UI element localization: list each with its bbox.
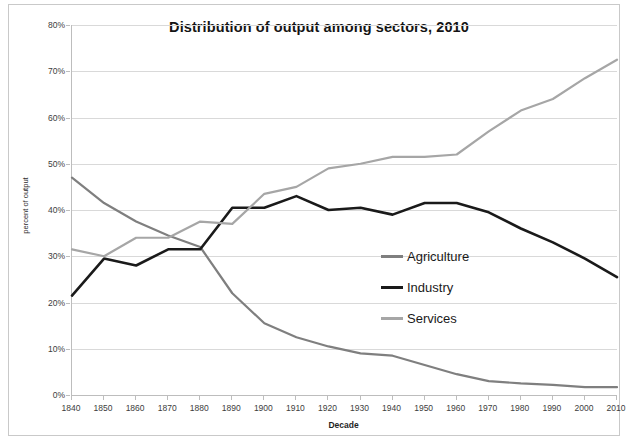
x-tick-mark xyxy=(552,396,553,400)
y-tick-mark xyxy=(66,349,70,350)
legend-item-industry[interactable]: Industry xyxy=(381,272,526,303)
x-tick-mark xyxy=(231,396,232,400)
x-tick-mark xyxy=(616,396,617,400)
y-tick-mark xyxy=(66,118,70,119)
x-tick-mark xyxy=(584,396,585,400)
x-tick-mark xyxy=(71,396,72,400)
legend-swatch-icon xyxy=(381,255,403,258)
y-tick-mark xyxy=(66,25,70,26)
y-tick-label: 60% xyxy=(31,113,65,123)
x-tick-mark xyxy=(327,396,328,400)
legend-item-services[interactable]: Services xyxy=(381,303,526,334)
y-tick-mark xyxy=(66,303,70,304)
x-tick-mark xyxy=(456,396,457,400)
y-tick-label: 0% xyxy=(31,390,65,400)
y-tick-label: 80% xyxy=(31,20,65,30)
legend-label: Agriculture xyxy=(407,249,469,264)
x-tick-mark xyxy=(520,396,521,400)
x-tick-mark xyxy=(135,396,136,400)
x-tick-mark xyxy=(424,396,425,400)
chart-figure-frame: Distribution of output among sectors, 20… xyxy=(8,4,620,436)
y-tick-label: 70% xyxy=(31,66,65,76)
legend-swatch-icon xyxy=(381,286,403,289)
x-tick-mark xyxy=(392,396,393,400)
x-tick-mark xyxy=(263,396,264,400)
x-tick-mark xyxy=(488,396,489,400)
plot-area xyxy=(71,25,617,396)
legend-label: Industry xyxy=(407,280,453,295)
y-tick-mark xyxy=(66,164,70,165)
chart-legend: AgricultureIndustryServices xyxy=(381,241,526,334)
y-tick-mark xyxy=(66,210,70,211)
x-axis-title: Decade xyxy=(71,420,616,430)
y-tick-label: 50% xyxy=(31,159,65,169)
y-tick-mark xyxy=(66,256,70,257)
y-axis-tick-labels: 80%70%60%50%40%30%20%10%0% xyxy=(27,25,65,395)
y-tick-mark xyxy=(66,395,70,396)
y-tick-label: 30% xyxy=(31,251,65,261)
y-tick-mark xyxy=(66,71,70,72)
series-line-services xyxy=(72,60,617,257)
y-tick-label: 10% xyxy=(31,344,65,354)
x-tick-label: 2010 xyxy=(596,403,630,413)
y-tick-label: 20% xyxy=(31,298,65,308)
x-tick-mark xyxy=(295,396,296,400)
series-line-industry xyxy=(72,196,617,295)
y-tick-label: 40% xyxy=(31,205,65,215)
x-tick-mark xyxy=(199,396,200,400)
x-tick-mark xyxy=(360,396,361,400)
legend-swatch-icon xyxy=(381,317,403,320)
x-tick-mark xyxy=(167,396,168,400)
series-lines xyxy=(72,25,617,395)
legend-item-agriculture[interactable]: Agriculture xyxy=(381,241,526,272)
legend-label: Services xyxy=(407,311,457,326)
x-tick-mark xyxy=(103,396,104,400)
